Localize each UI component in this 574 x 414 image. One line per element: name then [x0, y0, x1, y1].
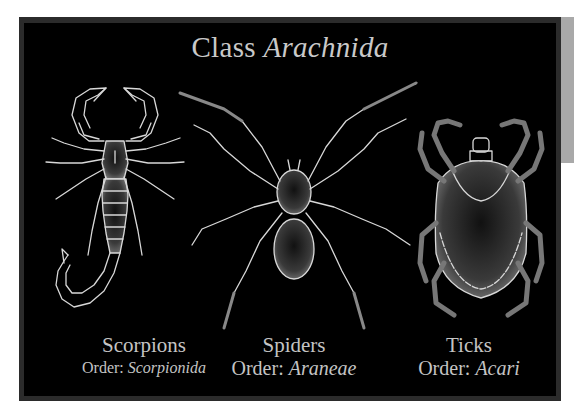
scorpions-name: Scorpions: [74, 333, 214, 357]
scorpion-illustration: [46, 88, 184, 307]
order-name: Scorpionida: [128, 359, 206, 376]
order-label: Order:: [82, 359, 124, 376]
spiders-caption: Spiders Order: Araneae: [204, 333, 384, 379]
ticks-caption: Ticks Order: Acari: [394, 333, 544, 379]
spiders-order: Order: Araneae: [204, 357, 384, 379]
order-name: Araneae: [289, 357, 357, 379]
side-tab: [561, 17, 574, 163]
tick-illustration: [420, 121, 542, 315]
spiders-name: Spiders: [204, 333, 384, 357]
spider-illustration: [180, 83, 416, 328]
order-name: Acari: [475, 357, 519, 379]
arachnida-poster: Class Arachnida: [19, 17, 561, 401]
order-label: Order:: [418, 357, 470, 379]
scorpions-caption: Scorpions Order: Scorpionida: [74, 333, 214, 379]
order-label: Order:: [232, 357, 284, 379]
ticks-name: Ticks: [394, 333, 544, 357]
ticks-order: Order: Acari: [394, 357, 544, 379]
scorpions-order: Order: Scorpionida: [74, 357, 214, 379]
